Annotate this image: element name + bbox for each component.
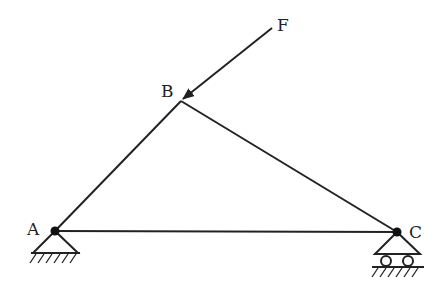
- load-arrow-f: [183, 28, 272, 99]
- label-b: B: [161, 81, 174, 101]
- ground-hatch-c: [372, 268, 418, 277]
- member-bc: [181, 101, 397, 232]
- ground-hatch-a: [30, 254, 76, 263]
- roller-wheel-right: [403, 256, 413, 266]
- member-ac: [55, 231, 397, 232]
- label-c: C: [409, 222, 422, 242]
- joint-c: [393, 228, 402, 237]
- truss-diagram: A B C F: [0, 0, 446, 289]
- members: [55, 101, 397, 232]
- member-ab: [55, 101, 181, 231]
- joint-a: [51, 227, 60, 236]
- label-a: A: [26, 219, 40, 239]
- roller-wheel-left: [381, 256, 391, 266]
- label-f: F: [277, 15, 289, 35]
